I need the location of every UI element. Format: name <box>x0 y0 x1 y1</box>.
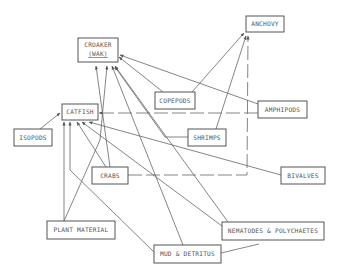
node-label: SHRIMPS <box>193 134 221 141</box>
edge-isopods-to-catfish <box>40 113 60 129</box>
edges-layer <box>40 33 281 253</box>
node-plant-material: PLANT MATERIAL <box>47 221 115 239</box>
node-copepods: COPEPODS <box>155 92 195 109</box>
node-label: AMPHIPODS <box>265 106 300 113</box>
nodes-layer: CROAKER(WAK)ANCHOVYCATFISHCOPEPODSAMPHIP… <box>14 16 325 263</box>
node-isopods: ISOPODS <box>14 129 52 146</box>
node-label: PLANT MATERIAL <box>54 226 109 233</box>
node-label: MUD & DETRITUS <box>160 250 215 257</box>
node-catfish: CATFISH <box>62 104 98 120</box>
node-sublabel: (WAK) <box>88 50 108 57</box>
node-label: CROAKER <box>84 41 112 48</box>
edge-mud-to-nematodes <box>221 244 259 253</box>
node-anchovy: ANCHOVY <box>246 16 284 32</box>
node-croaker: CROAKER(WAK) <box>78 38 118 62</box>
node-label: ANCHOVY <box>251 20 279 27</box>
node-shrimps: SHRIMPS <box>188 129 226 146</box>
food-web-diagram: CROAKER(WAK)ANCHOVYCATFISHCOPEPODSAMPHIP… <box>0 0 340 278</box>
node-amphipods: AMPHIPODS <box>258 101 307 118</box>
node-label: NEMATODES & POLYCHAETES <box>228 227 318 234</box>
node-bivalves: BIVALVES <box>281 167 325 184</box>
node-label: BIVALVES <box>287 172 318 179</box>
edge-shrimps-to-anchovy <box>216 36 246 129</box>
node-label: ISOPODS <box>19 134 47 141</box>
node-nematodes: NEMATODES & POLYCHAETES <box>222 222 324 240</box>
node-label: CRABS <box>100 172 120 179</box>
node-crabs: CRABS <box>92 167 128 184</box>
node-label: COPEPODS <box>159 97 190 104</box>
node-label: CATFISH <box>66 108 94 115</box>
node-mud: MUD & DETRITUS <box>154 245 221 263</box>
edge-plant-material-to-croaker <box>64 66 107 221</box>
